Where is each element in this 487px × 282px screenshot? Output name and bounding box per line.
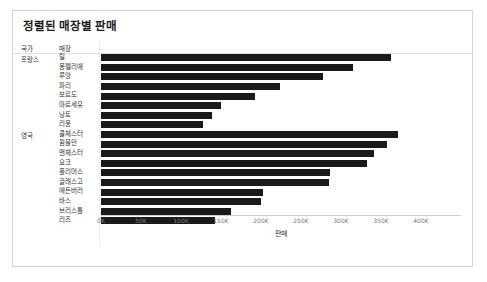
bar[interactable] (101, 73, 323, 80)
bar[interactable] (101, 93, 255, 100)
bar-row[interactable]: 낭트 (13, 111, 472, 121)
bar[interactable] (101, 131, 398, 138)
store-label: 바스 (59, 197, 71, 207)
bar[interactable] (101, 112, 212, 119)
x-tick-label: 350K (373, 217, 388, 224)
bar[interactable] (101, 150, 374, 157)
bar-row[interactable]: 바스 (13, 197, 472, 207)
bar-row[interactable]: 파리 (13, 82, 472, 92)
bar[interactable] (101, 160, 367, 167)
store-label: 플리머스 (59, 168, 83, 178)
store-label: 요크 (59, 159, 71, 169)
x-tick-label: 0K (97, 217, 105, 224)
column-header-country: 국가 (21, 43, 33, 53)
x-tick-label: 400K (413, 217, 428, 224)
store-label: 낭트 (59, 111, 71, 121)
bar[interactable] (101, 169, 330, 176)
bar-row[interactable]: 플리머스 (13, 168, 472, 178)
bar[interactable] (101, 141, 387, 148)
bar-row[interactable]: 글래스고 (13, 178, 472, 188)
store-label: 리옹 (59, 120, 71, 130)
bar[interactable] (101, 83, 280, 90)
x-tick-label: 200K (253, 217, 268, 224)
bar-row[interactable]: 루앙 (13, 72, 472, 82)
column-header-store: 매장 (59, 43, 71, 53)
bar-row[interactable]: 마르세유 (13, 101, 472, 111)
bar[interactable] (101, 121, 203, 128)
store-label: 글래스고 (59, 178, 83, 188)
bar-row[interactable]: 요크 (13, 159, 472, 169)
store-label: 몽펠리에 (59, 63, 83, 73)
store-label: 에든버러 (59, 187, 83, 197)
bar-row[interactable]: 윔블던 (13, 139, 472, 149)
x-axis: 0K50K100K150K200K250K300K350K400K 판매 (13, 215, 472, 245)
bar-row[interactable]: 에든버러 (13, 187, 472, 197)
bar[interactable] (101, 208, 231, 215)
bar-row[interactable]: 콜체스터 (13, 130, 472, 140)
bar[interactable] (101, 179, 329, 186)
bar-row[interactable]: 맨체스터 (13, 149, 472, 159)
bar-row[interactable]: 리옹 (13, 120, 472, 130)
x-axis-label: 판매 (101, 228, 461, 238)
bar[interactable] (101, 64, 353, 71)
x-tick-label: 300K (333, 217, 348, 224)
x-tick-label: 50K (135, 217, 147, 224)
chart-card: 정렬된 매장별 판매 국가 매장 프랑스릴몽펠리에루앙파리보르도마르세유낭트리옹… (12, 10, 473, 267)
bar[interactable] (101, 54, 391, 61)
store-label: 릴 (59, 53, 65, 63)
x-tick-label: 250K (293, 217, 308, 224)
store-label: 윔블던 (59, 139, 77, 149)
store-label: 콜체스터 (59, 130, 83, 140)
bar[interactable] (101, 189, 263, 196)
x-axis-line (101, 215, 461, 216)
chart-title: 정렬된 매장별 판매 (23, 17, 117, 33)
bar[interactable] (101, 102, 221, 109)
bar[interactable] (101, 198, 261, 205)
x-tick-label: 100K (173, 217, 188, 224)
store-label: 맨체스터 (59, 149, 83, 159)
bar-row[interactable]: 보르도 (13, 91, 472, 101)
store-label: 파리 (59, 82, 71, 92)
store-label: 보르도 (59, 91, 77, 101)
bar-row[interactable]: 릴 (13, 53, 472, 63)
store-label: 마르세유 (59, 101, 83, 111)
x-tick-label: 150K (213, 217, 228, 224)
bar-row[interactable]: 몽펠리에 (13, 63, 472, 73)
store-label: 루앙 (59, 72, 71, 82)
